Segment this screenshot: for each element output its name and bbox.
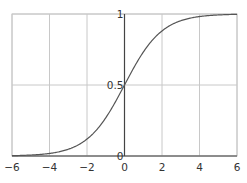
x-tick-label: 6	[234, 161, 241, 173]
x-tick-label: 0	[121, 161, 128, 173]
x-tick-label: 4	[196, 161, 203, 173]
x-tick-labels: −6−4−20246	[4, 161, 240, 173]
y-tick-label: 0	[117, 150, 124, 162]
y-tick-labels: 00.51	[107, 8, 124, 162]
x-tick-label: 2	[159, 161, 166, 173]
x-tick-label: −6	[4, 161, 20, 173]
x-tick-label: −2	[79, 161, 94, 173]
y-tick-label: 1	[117, 8, 124, 20]
y-tick-label: 0.5	[107, 79, 124, 91]
x-tick-label: −4	[42, 161, 58, 173]
sigmoid-chart: −6−4−20246 00.51	[0, 0, 247, 183]
